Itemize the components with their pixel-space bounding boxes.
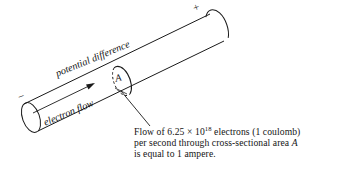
figure-caption: Flow of 6.25 × 1018 electrons (1 coulomb… [134,126,334,160]
right-end-cap-arc [204,7,231,43]
caption-line1-base: 10 [193,126,205,137]
caption-line2-prefix: per second through cross-sectional area [134,137,292,148]
current-through-conductor-figure: + − potential difference electron flow A… [0,0,338,175]
cylinder-top-edge [24,14,210,104]
caption-leader-line [121,91,150,126]
caption-line-1: Flow of 6.25 × 1018 electrons (1 coulomb… [134,126,334,137]
caption-line1-exponent: 18 [205,125,212,132]
caption-line-2: per second through cross-sectional area … [134,137,334,148]
caption-line1-suffix: electrons (1 coulomb) [212,126,301,137]
caption-line-3: is equal to 1 ampere. [134,148,334,159]
caption-line1-prefix: Flow of 6.25 [134,126,187,137]
caption-line2-area-symbol: A [292,137,298,148]
electron-flow-arrow-head [86,83,95,90]
